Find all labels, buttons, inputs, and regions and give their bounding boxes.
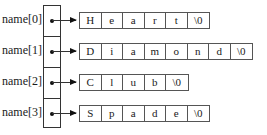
null-terminator-cell: \0: [231, 44, 253, 59]
null-terminator-cell: \0: [166, 75, 188, 90]
pointer-cell-2: [44, 68, 60, 99]
char-cell: r: [145, 13, 167, 28]
arrow-icon: [52, 113, 76, 114]
pointer-cell-3: [44, 99, 60, 130]
arrow-icon: [52, 51, 76, 52]
char-cell: t: [166, 13, 188, 28]
label-name-1: name[1]: [2, 43, 42, 57]
char-cell: d: [209, 44, 231, 59]
string-club: C l u b \0: [79, 74, 189, 91]
char-cell: d: [145, 106, 167, 121]
pointer-cell-0: [44, 6, 60, 37]
char-cell: D: [80, 44, 102, 59]
pointer-array: [43, 5, 61, 128]
char-cell: e: [102, 13, 124, 28]
null-terminator-cell: \0: [188, 13, 210, 28]
string-diamond: D i a m o n d \0: [79, 43, 253, 60]
string-spade: S p a d e \0: [79, 105, 210, 122]
label-name-0: name[0]: [2, 12, 42, 26]
char-cell: m: [145, 44, 167, 59]
pointer-cell-1: [44, 37, 60, 68]
char-cell: i: [102, 44, 124, 59]
string-heart: H e a r t \0: [79, 12, 210, 29]
null-terminator-cell: \0: [188, 106, 210, 121]
char-cell: p: [102, 106, 124, 121]
char-cell: C: [80, 75, 102, 90]
char-cell: u: [123, 75, 145, 90]
label-name-2: name[2]: [2, 74, 42, 88]
arrow-icon: [52, 20, 76, 21]
arrow-icon: [52, 82, 76, 83]
char-cell: a: [123, 44, 145, 59]
char-cell: b: [145, 75, 167, 90]
char-cell: a: [123, 106, 145, 121]
char-cell: n: [188, 44, 210, 59]
char-cell: S: [80, 106, 102, 121]
char-cell: H: [80, 13, 102, 28]
char-cell: e: [166, 106, 188, 121]
label-name-3: name[3]: [2, 105, 42, 119]
char-cell: l: [102, 75, 124, 90]
char-cell: o: [166, 44, 188, 59]
char-cell: a: [123, 13, 145, 28]
